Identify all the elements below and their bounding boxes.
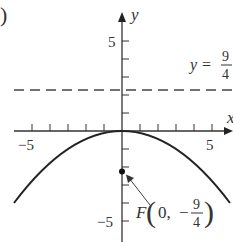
y-axis-arrow-icon <box>118 12 126 22</box>
panel-label: ) <box>0 2 7 27</box>
svg-text:4: 4 <box>193 215 200 230</box>
y-tick-label-pos5: 5 <box>108 34 116 50</box>
focus-arrowhead-icon <box>126 175 134 184</box>
x-axis-label: x <box>226 108 233 127</box>
svg-text:4: 4 <box>222 67 229 82</box>
svg-text:(: ( <box>146 195 156 229</box>
parabola-plot: ) −5 5 5 −5 y <box>0 0 233 242</box>
focus-point <box>119 169 125 175</box>
svg-text:9: 9 <box>193 197 200 212</box>
x-tick-label-pos5: 5 <box>206 137 214 153</box>
svg-text:−: − <box>179 203 189 222</box>
x-axis-arrow-icon <box>224 127 233 135</box>
svg-text:9: 9 <box>222 49 229 64</box>
x-tick-label-neg5: −5 <box>18 137 34 153</box>
svg-text:y =: y = <box>188 56 212 74</box>
y-tick-label-neg5: −5 <box>97 214 113 230</box>
y-axis-label: y <box>129 5 139 24</box>
directrix-label: y = 9 4 <box>188 49 232 82</box>
focus-label: F ( 0, − 9 4 ) <box>135 195 214 230</box>
svg-text:0,: 0, <box>158 203 171 222</box>
svg-text:): ) <box>204 195 214 229</box>
